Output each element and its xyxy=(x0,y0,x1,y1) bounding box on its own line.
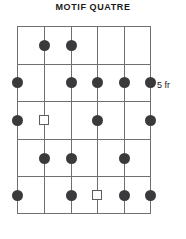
fret-position-label: 5 fr xyxy=(157,80,170,90)
fretboard-frame xyxy=(17,26,151,214)
fingered-marker-string2-fret1 xyxy=(39,40,50,51)
fretboard-diagram xyxy=(17,26,151,214)
fingered-marker-string6-fret2 xyxy=(145,77,156,88)
fingered-marker-string3-fret4 xyxy=(66,153,77,164)
fingered-marker-string5-fret2 xyxy=(119,77,130,88)
fingered-marker-string2-fret4 xyxy=(39,153,50,164)
fingered-marker-string4-fret3 xyxy=(92,115,103,126)
fingered-marker-string4-fret2 xyxy=(92,77,103,88)
fingered-marker-string1-fret2 xyxy=(12,77,23,88)
fret-line-3 xyxy=(17,139,151,140)
fretboard-grid xyxy=(17,26,151,214)
fingered-marker-string3-fret5 xyxy=(66,190,77,201)
fret-line-1 xyxy=(17,64,151,65)
fingered-marker-string3-fret1 xyxy=(66,40,77,51)
chord-diagram-page: MOTIF QUATRE 5 fr xyxy=(0,0,186,239)
fingered-marker-string6-fret5 xyxy=(145,190,156,201)
fingered-marker-string3-fret2 xyxy=(66,77,77,88)
string-line-5 xyxy=(124,26,125,214)
open-marker-string2-fret3 xyxy=(39,115,49,125)
fret-line-4 xyxy=(17,176,151,177)
fret-line-2 xyxy=(17,101,151,102)
page-title: MOTIF QUATRE xyxy=(0,2,186,12)
fingered-marker-string1-fret3 xyxy=(12,115,23,126)
open-marker-string4-fret5 xyxy=(92,190,102,200)
fingered-marker-string1-fret5 xyxy=(12,190,23,201)
fingered-marker-string5-fret4 xyxy=(119,153,130,164)
fingered-marker-string6-fret3 xyxy=(145,115,156,126)
string-line-3 xyxy=(71,26,72,214)
fingered-marker-string5-fret5 xyxy=(119,190,130,201)
